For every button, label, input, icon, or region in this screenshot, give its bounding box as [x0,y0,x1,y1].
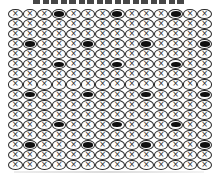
x-glyph: × [114,90,121,98]
x-glyph: × [12,110,19,118]
x-glyph: × [158,20,165,28]
circle-x-symbol: × [110,160,125,170]
circle-x-symbol: × [154,9,169,19]
circle-x-symbol: × [183,120,198,130]
circle-x-symbol: × [8,9,23,19]
x-glyph: × [129,30,136,38]
lattice-cell: × [66,39,81,49]
x-glyph: × [27,160,34,168]
filled-ellipse-symbol [168,9,183,19]
x-glyph: × [158,120,165,128]
circle-x-symbol: × [23,120,38,130]
circle-x-symbol: × [37,140,52,150]
lattice-cell: × [95,39,110,49]
circle-x-symbol: × [66,100,81,110]
lattice-cell: × [95,19,110,29]
circle-x-symbol: × [168,79,183,89]
lattice-cell: × [66,160,81,170]
x-glyph: × [143,100,150,108]
circle-x-symbol: × [154,160,169,170]
lattice-cell: × [37,49,52,59]
lattice-cell: × [197,59,212,69]
lattice-cell: × [95,120,110,130]
circle-x-symbol: × [154,39,169,49]
x-glyph: × [56,70,63,78]
x-glyph: × [187,70,194,78]
lattice-cell: × [154,130,169,140]
circle-x-symbol: × [168,130,183,140]
x-glyph: × [129,10,136,18]
lattice-cell: × [168,69,183,79]
lattice-cell: × [8,69,23,79]
lattice-cell: × [95,69,110,79]
x-glyph: × [70,30,77,38]
circle-x-symbol: × [81,49,96,59]
filled-dot [83,142,93,148]
lattice-cell: × [95,59,110,69]
x-glyph: × [41,150,48,158]
circle-x-symbol: × [168,39,183,49]
lattice-cell: × [8,100,23,110]
lattice-cell: × [139,9,154,19]
filled-ellipse-symbol [197,90,212,100]
x-glyph: × [114,70,121,78]
lattice-cell: × [37,9,52,19]
circle-x-symbol: × [183,110,198,120]
lattice-cell: × [95,9,110,19]
x-glyph: × [172,20,179,28]
lattice-cell: × [81,9,96,19]
filled-dot [141,41,151,47]
filled-dot [141,142,151,148]
lattice-cell: × [81,79,96,89]
x-glyph: × [158,100,165,108]
x-glyph: × [114,140,121,148]
circle-x-symbol: × [154,69,169,79]
circle-x-symbol: × [81,120,96,130]
circle-x-symbol: × [95,9,110,19]
lattice-cell: × [139,130,154,140]
circle-x-symbol: × [154,19,169,29]
x-glyph: × [12,70,19,78]
filled-ellipse-symbol [197,39,212,49]
filled-dot [171,11,181,17]
x-glyph: × [99,40,106,48]
lattice-cell: × [125,59,140,69]
lattice-cell: × [183,59,198,69]
lattice-cell: × [183,150,198,160]
lattice-cell: × [125,90,140,100]
lattice-cell: × [81,49,96,59]
circle-x-symbol: × [125,69,140,79]
lattice-cell [168,59,183,69]
lattice-cell: × [183,39,198,49]
lattice-cell: × [197,150,212,160]
x-glyph: × [201,50,208,58]
circle-x-symbol: × [81,160,96,170]
lattice-cell: × [52,69,67,79]
circle-x-symbol: × [23,130,38,140]
x-glyph: × [172,140,179,148]
x-glyph: × [158,30,165,38]
lattice-cell: × [66,9,81,19]
x-glyph: × [41,30,48,38]
x-glyph: × [158,80,165,88]
circle-x-symbol: × [197,79,212,89]
lattice-cell [81,39,96,49]
lattice-cell: × [95,140,110,150]
filled-dot [112,11,122,17]
lattice-cell: × [154,39,169,49]
lattice-cell: × [125,140,140,150]
x-glyph: × [12,50,19,58]
x-glyph: × [41,120,48,128]
x-glyph: × [85,130,92,138]
circle-x-symbol: × [95,29,110,39]
circle-x-symbol: × [183,29,198,39]
lattice-cell: × [168,100,183,110]
x-glyph: × [27,150,34,158]
x-glyph: × [41,40,48,48]
lattice-cell: × [168,29,183,39]
filled-ellipse-symbol [52,120,67,130]
x-glyph: × [114,20,121,28]
lattice-cell: × [139,49,154,59]
lattice-cell: × [197,110,212,120]
lattice-cell: × [66,150,81,160]
